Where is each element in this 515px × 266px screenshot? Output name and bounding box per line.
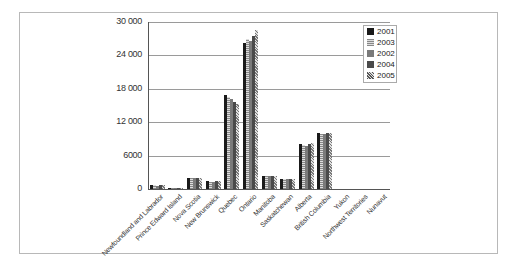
gridline [148,55,390,56]
bar [274,176,277,189]
y-tick-label: 6000 [82,150,142,160]
y-axis [148,22,149,189]
bar [329,133,332,189]
legend: 20012003200220042005 [363,25,397,83]
gridline [148,89,390,90]
legend-label: 2004 [377,60,395,69]
bar [311,143,314,189]
y-tick-label: 18 000 [82,83,142,93]
bar [236,104,239,189]
bar [199,178,202,189]
legend-swatch-icon [367,28,374,35]
plot-area [148,22,390,189]
gridline [148,156,390,157]
gridline [148,22,390,23]
legend-item: 2001 [367,27,396,37]
y-tick-label: 30 000 [82,16,142,26]
legend-item: 2004 [367,60,396,70]
legend-swatch-icon [367,39,374,46]
legend-label: 2003 [377,38,395,47]
legend-item: 2005 [367,71,396,81]
x-axis [148,189,390,190]
y-tick-label: 0 [82,183,142,193]
bar [218,181,221,189]
legend-item: 2003 [367,38,396,48]
legend-item: 2002 [367,49,396,59]
y-tick-label: 24 000 [82,49,142,59]
legend-label: 2002 [377,49,395,58]
legend-swatch-icon [367,72,374,79]
bar [292,179,295,189]
bar [255,30,258,189]
legend-label: 2005 [377,71,395,80]
legend-swatch-icon [367,61,374,68]
legend-swatch-icon [367,50,374,57]
gridline [148,122,390,123]
legend-label: 2001 [377,27,395,36]
y-tick-label: 12 000 [82,116,142,126]
